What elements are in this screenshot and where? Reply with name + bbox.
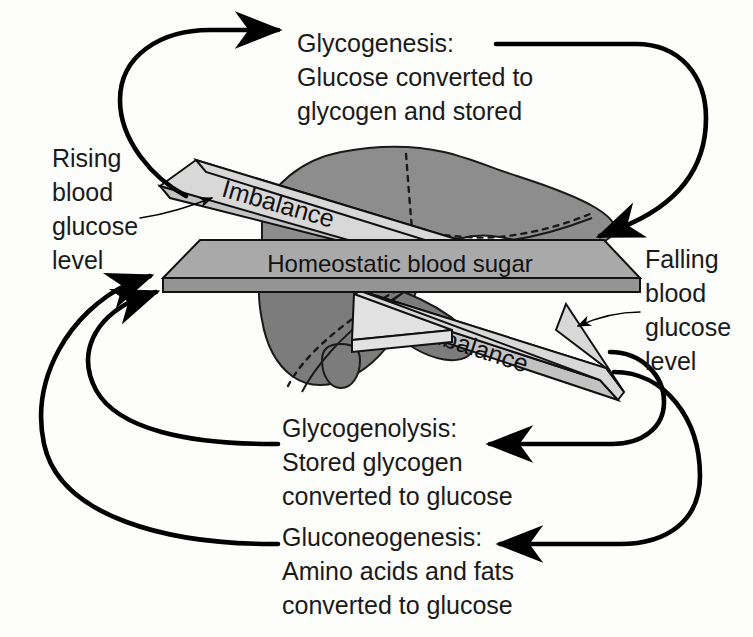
flow-falling-to-gluconeogenesis: [500, 372, 700, 544]
falling-line-3: glucose: [645, 313, 731, 341]
leader-falling-to-plank: [578, 312, 640, 326]
gluconeogenesis-body-line-2: converted to glucose: [282, 591, 513, 619]
glycogenesis-heading: Glycogenesis:: [297, 29, 454, 57]
rising-line-3: glucose: [52, 212, 138, 240]
glycogenolysis-body-line-2: converted to glucose: [282, 482, 513, 510]
gluconeogenesis-body-line-1: Amino acids and fats: [282, 557, 514, 585]
homeostatic-beam-label: Homeostatic blood sugar: [267, 250, 532, 277]
glycogenesis-body-line-1: Glucose converted to: [297, 63, 533, 91]
homeostasis-diagram: Imbalance Imbalance Homeostatic blood su…: [0, 0, 753, 637]
flow-glycogenolysis-to-beam: [88, 292, 272, 444]
glycogenolysis-heading: Glycogenolysis:: [282, 414, 457, 442]
flow-gluconeogenesis-to-beam: [41, 276, 272, 544]
falling-line-2: blood: [645, 279, 706, 307]
falling-line-1: Falling: [645, 245, 719, 273]
process-gluconeogenesis: Gluconeogenesis: Amino acids and fats co…: [282, 523, 514, 619]
glycogenesis-body-line-2: glycogen and stored: [297, 97, 522, 125]
falling-line-4: level: [645, 347, 696, 375]
diagram-canvas: Imbalance Imbalance Homeostatic blood su…: [0, 0, 753, 637]
rising-line-2: blood: [52, 178, 113, 206]
homeostatic-beam: Homeostatic blood sugar: [163, 240, 640, 292]
glycogenolysis-body-line-1: Stored glycogen: [282, 448, 463, 476]
gluconeogenesis-heading: Gluconeogenesis:: [282, 523, 482, 551]
rising-line-4: level: [52, 246, 103, 274]
rising-line-1: Rising: [52, 144, 121, 172]
label-falling-blood-glucose: Falling blood glucose level: [645, 245, 731, 375]
label-rising-blood-glucose: Rising blood glucose level: [52, 144, 138, 274]
process-glycogenolysis: Glycogenolysis: Stored glycogen converte…: [282, 414, 513, 510]
